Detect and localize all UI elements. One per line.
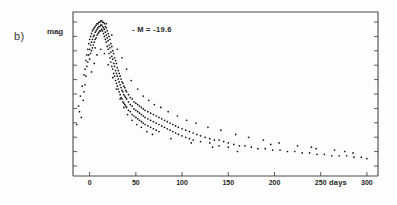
svg-text:150: 150 [222,179,234,186]
svg-text:0: 0 [88,179,92,186]
light-curve-plot: 050100150200250300 [0,0,397,205]
svg-text:50: 50 [132,179,140,186]
svg-text:300: 300 [361,179,373,186]
svg-text:100: 100 [176,179,188,186]
x-axis-ticks: 050100150200250300 [88,172,373,186]
plot-axes [73,12,378,176]
figure-panel-b: b) mag - M = -19.6 days 0501001502002503… [0,0,397,205]
svg-text:250: 250 [315,179,327,186]
scatter-points [76,20,368,159]
svg-text:200: 200 [269,179,281,186]
y-axis-ticks [73,22,378,166]
